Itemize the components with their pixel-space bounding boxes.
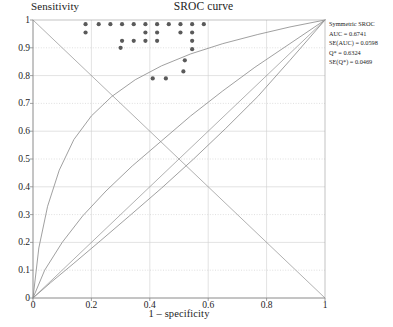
data-point (120, 39, 124, 43)
data-point (97, 22, 101, 26)
data-point (190, 22, 194, 26)
data-point (155, 22, 159, 26)
data-point (183, 58, 187, 62)
data-point (155, 30, 159, 34)
y-tick-label: 0.1 (18, 265, 30, 275)
data-point (132, 39, 136, 43)
y-tick-label: 0.9 (18, 43, 30, 53)
y-tick-label: 0.8 (18, 71, 30, 81)
data-point (143, 30, 147, 34)
legend-auc: AUC = 0.6741 (329, 29, 393, 39)
data-point (108, 22, 112, 26)
data-point (190, 39, 194, 43)
y-tick-label: 1 (25, 15, 30, 25)
legend-title: Symmetric SROC (329, 19, 393, 29)
data-point (181, 69, 185, 73)
data-point (178, 30, 182, 34)
y-axis-tick-labels: 00.10.20.30.40.50.60.70.80.91 (0, 0, 30, 327)
y-tick-label: 0.2 (18, 237, 30, 247)
data-point (83, 22, 87, 26)
y-tick-label: 0 (25, 293, 30, 303)
y-tick-label: 0.7 (18, 98, 30, 108)
data-point (190, 47, 194, 51)
data-point (164, 76, 168, 80)
data-point (167, 22, 171, 26)
y-tick-label: 0.4 (18, 182, 30, 192)
legend-qstar: Q* = 0.6324 (329, 48, 393, 58)
data-point (155, 39, 159, 43)
data-point (190, 30, 194, 34)
y-tick-label: 0.3 (18, 210, 30, 220)
data-point (132, 22, 136, 26)
y-axis-title: Sensitivity (31, 0, 79, 12)
data-point (143, 39, 147, 43)
legend-se-qstar: SE(Q*) = 0.0469 (329, 57, 393, 67)
legend-se-auc: SE(AUC) = 0.0598 (329, 38, 393, 48)
data-point (178, 22, 182, 26)
y-tick-label: 0.5 (18, 154, 30, 164)
data-point (120, 22, 124, 26)
y-tick-label: 0.6 (18, 126, 30, 136)
data-point (151, 76, 155, 80)
data-point (83, 30, 87, 34)
data-point (202, 22, 206, 26)
data-point (119, 46, 123, 50)
legend-box: Symmetric SROC AUC = 0.6741 SE(AUC) = 0.… (326, 19, 393, 67)
data-point (143, 22, 147, 26)
sroc-chart-figure: SROC curve Sensitivity 00.10.20.30.40.50… (0, 0, 393, 327)
x-axis-title: 1 – specificity (33, 308, 325, 319)
